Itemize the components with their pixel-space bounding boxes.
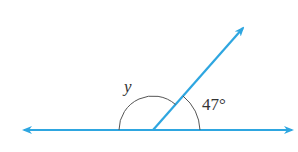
angle-label-y: y: [124, 78, 132, 95]
angle-diagram: y 47°: [0, 0, 298, 152]
arc-47: [183, 96, 200, 130]
angle-label-47: 47°: [202, 96, 226, 113]
diagram-svg: [0, 0, 298, 152]
ray: [153, 28, 243, 130]
